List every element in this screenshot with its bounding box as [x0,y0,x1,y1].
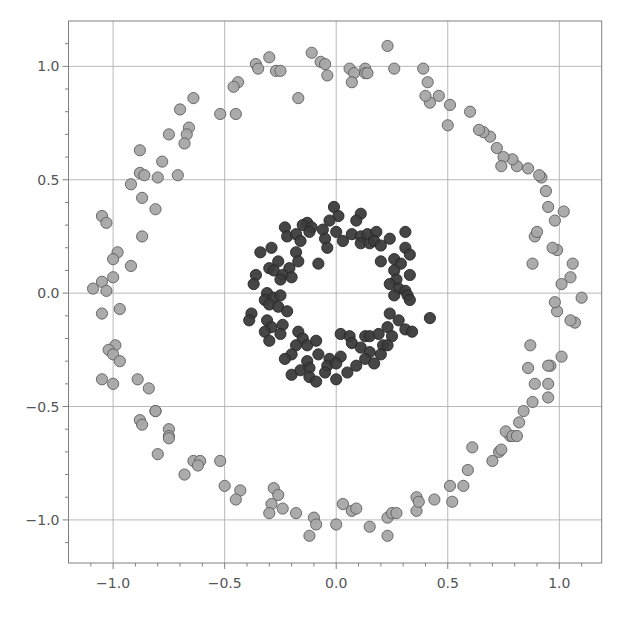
plot-frame [69,21,602,563]
data-point [543,360,554,371]
data-point [219,480,230,491]
data-point [228,81,239,92]
data-point [311,376,322,387]
x-tick-label: −1.0 [96,575,130,591]
data-point [522,163,533,174]
data-point [163,433,174,444]
data-point [306,47,317,58]
data-point [375,240,386,251]
data-point [404,269,415,280]
data-point [125,260,136,271]
data-point [319,58,330,69]
data-point [413,496,424,507]
y-tick-label: 0.5 [37,172,59,188]
data-point [188,93,199,104]
data-point [313,349,324,360]
data-point [179,138,190,149]
data-point [540,185,551,196]
data-point [467,442,478,453]
data-point [342,367,353,378]
data-point [518,405,529,416]
data-point [108,254,119,265]
data-point [137,231,148,242]
data-point [125,179,136,190]
data-point [293,93,304,104]
data-point [420,90,431,101]
data-point [264,335,275,346]
data-point [473,124,484,135]
data-point [96,308,107,319]
data-point [179,469,190,480]
data-point [391,508,402,519]
data-point [400,226,411,237]
data-point [253,63,264,74]
data-point [322,70,333,81]
data-point [534,170,545,181]
data-point [275,290,286,301]
data-point [529,378,540,389]
data-point [373,328,384,339]
data-point [108,272,119,283]
data-point [157,156,168,167]
data-point [139,170,150,181]
data-point [514,417,525,428]
data-point [547,242,558,253]
y-tick-label: −0.5 [26,399,60,415]
data-point [418,63,429,74]
data-point [137,192,148,203]
data-point [375,256,386,267]
scatter-chart: −1.0−0.50.00.51.0 1.00.50.0−0.5−1.0 [0,0,620,619]
data-point [230,108,241,119]
data-point [565,272,576,283]
y-tick-label: 1.0 [37,58,59,74]
data-point [543,378,554,389]
data-point [389,63,400,74]
data-point [174,104,185,115]
data-point [458,480,469,491]
data-point [331,358,342,369]
data-point [558,206,569,217]
data-point [108,378,119,389]
data-point [134,145,145,156]
data-point [150,204,161,215]
data-point [150,405,161,416]
data-point [511,430,522,441]
data-point [152,172,163,183]
data-point [556,351,567,362]
data-point [311,335,322,346]
data-point [406,326,417,337]
data-point [275,328,286,339]
data-point [244,315,255,326]
x-tick-label: 0.5 [437,575,459,591]
data-point [87,283,98,294]
data-point [543,392,554,403]
data-point [286,272,297,283]
x-axis: −1.0−0.50.00.51.0 [91,563,582,591]
outer-circle-series [87,40,587,541]
data-point [549,297,560,308]
data-point [322,242,333,253]
data-point [114,356,125,367]
data-point [304,226,315,237]
data-point [565,315,576,326]
data-point [531,226,542,237]
data-point [279,353,290,364]
data-point [215,455,226,466]
y-tick-label: 0.0 [37,285,59,301]
data-point [101,285,112,296]
data-point [444,480,455,491]
data-point [114,303,125,314]
data-point [351,503,362,514]
data-point [255,247,266,258]
data-point [351,215,362,226]
data-point [382,530,393,541]
data-point [447,496,458,507]
data-point [389,290,400,301]
x-tick-label: 0.0 [325,575,347,591]
data-point [422,77,433,88]
data-point [429,494,440,505]
data-point [549,215,560,226]
data-point [364,521,375,532]
data-point [369,358,380,369]
data-point [462,464,473,475]
